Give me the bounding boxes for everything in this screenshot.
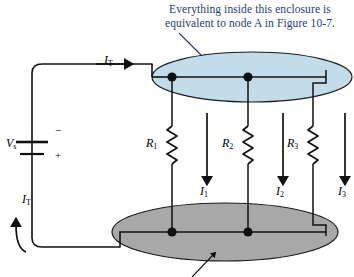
resistor-1-label: R1 [146, 136, 157, 151]
resistor-3-label: R3 [287, 136, 298, 151]
source-label: Vs [6, 136, 16, 151]
current-i2-label: I2 [276, 184, 284, 199]
wire-source-return-bottom [32, 196, 120, 247]
source-minus-sign: − [55, 124, 61, 136]
wire-source-to-top-node [32, 64, 152, 130]
branch-3-bottom-wire [313, 164, 326, 236]
current-i1-label: I1 [200, 184, 208, 199]
source-plus-sign: + [55, 149, 61, 161]
resistor-2-symbol [243, 126, 253, 164]
resistor-1-symbol [167, 126, 177, 164]
resistor-2-label: R2 [222, 136, 233, 151]
current-total-bottom-label: IT [22, 192, 31, 207]
current-total-bottom-arrow-icon [16, 225, 26, 252]
caption-pointer-arrow-icon [179, 33, 203, 57]
current-total-top-label: IT [104, 53, 113, 68]
resistor-3-symbol [308, 126, 318, 164]
current-i3-label: I3 [338, 184, 346, 199]
figure-canvas: Everything inside this enclosure is equi… [0, 0, 354, 277]
circuit-drawing [0, 0, 354, 277]
